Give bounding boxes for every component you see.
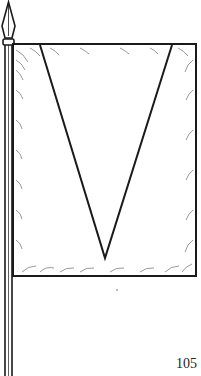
- page-number: 105: [176, 356, 197, 372]
- flag-illustration: [0, 0, 201, 376]
- flag: [13, 44, 196, 291]
